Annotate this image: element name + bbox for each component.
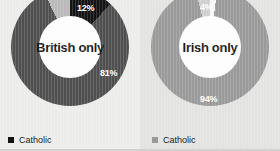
irish-only-center: Irish only xyxy=(179,16,241,78)
legend-swatch-catholic-icon xyxy=(152,137,158,143)
british-only-donut: 12% 81% British only xyxy=(11,0,129,106)
irish-other-percent: 4% xyxy=(200,2,213,12)
british-protestant-percent: 81% xyxy=(100,68,117,78)
british-catholic-percent: 12% xyxy=(77,3,94,13)
british-only-donut-wrap: 12% 81% British only xyxy=(11,0,129,106)
british-only-center: British only xyxy=(39,16,101,78)
legend-label-catholic: Catholic xyxy=(163,135,196,145)
british-only-legend: Catholic xyxy=(8,135,52,145)
irish-only-title: Irish only xyxy=(183,40,238,55)
legend-swatch-catholic-icon xyxy=(8,137,14,143)
legend-label-catholic: Catholic xyxy=(19,135,52,145)
british-only-title: British only xyxy=(36,40,104,55)
irish-only-donut-wrap: 4% 94% Irish only xyxy=(151,0,269,106)
irish-only-legend: Catholic xyxy=(152,135,196,145)
irish-only-chart-panel: 4% 94% Irish only Catholic xyxy=(140,0,280,151)
bottom-divider xyxy=(0,149,280,151)
irish-only-donut: 4% 94% Irish only xyxy=(151,0,269,106)
british-only-chart-panel: 12% 81% British only Catholic xyxy=(0,0,140,151)
irish-catholic-percent: 94% xyxy=(200,94,217,104)
chart-figure: 12% 81% British only Catholic 4% 94% Iri… xyxy=(0,0,280,151)
